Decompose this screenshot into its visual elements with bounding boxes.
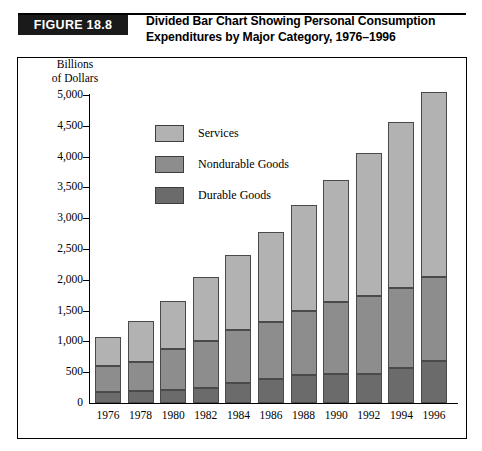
- bar-segment-services-1984: [225, 255, 251, 330]
- y-tick-1000: 1,000: [30, 341, 83, 342]
- y-tick-label: 1,500: [37, 304, 83, 316]
- y-tick-3000: 3,000: [30, 218, 83, 219]
- y-tick-label: 0: [37, 396, 83, 408]
- y-tick-500: 500: [30, 372, 83, 373]
- y-tick-1500: 1,500: [30, 311, 83, 312]
- y-tick-mark: [83, 249, 89, 250]
- bar-segment-nondurable-goods-1996: [421, 277, 447, 361]
- bar-segment-services-1978: [128, 321, 154, 362]
- bar-segment-nondurable-goods-1984: [225, 330, 251, 384]
- stacked-bar-1990: [323, 180, 349, 403]
- bar-segment-services-1992: [356, 153, 382, 296]
- y-tick-label: 4,000: [37, 150, 83, 162]
- y-tick-label: 2,500: [37, 242, 83, 254]
- y-tick-mark: [83, 372, 89, 373]
- y-tick-label: 3,500: [37, 180, 83, 192]
- bar-segment-services-1994: [388, 122, 414, 288]
- y-tick-5000: 5,000: [30, 95, 83, 96]
- stacked-bar-1988: [291, 205, 317, 403]
- stacked-bar-1994: [388, 122, 414, 404]
- bar-segment-services-1990: [323, 180, 349, 302]
- stacked-bar-1996: [421, 92, 447, 403]
- y-tick-mark: [83, 126, 89, 127]
- bar-segment-services-1980: [160, 301, 186, 350]
- bar-segment-durable-goods-1996: [421, 361, 447, 403]
- chart-legend: ServicesNondurable GoodsDurable Goods: [155, 122, 289, 215]
- y-tick-4500: 4,500: [30, 126, 83, 127]
- bar-segment-nondurable-goods-1980: [160, 349, 186, 389]
- stacked-bar-1982: [193, 277, 219, 403]
- y-tick-label: 2,000: [37, 273, 83, 285]
- stacked-bar-1976: [95, 337, 121, 403]
- bar-segment-nondurable-goods-1994: [388, 288, 414, 368]
- stacked-bar-1984: [225, 255, 251, 403]
- bar-segment-durable-goods-1976: [95, 392, 121, 403]
- bar-segment-durable-goods-1992: [356, 374, 382, 403]
- legend-swatch-services: [155, 125, 184, 142]
- bar-segment-durable-goods-1978: [128, 391, 154, 403]
- y-tick-3500: 3,500: [30, 187, 83, 188]
- y-tick-label: 3,000: [37, 211, 83, 223]
- legend-swatch-nondurable-goods: [155, 156, 184, 173]
- bar-segment-nondurable-goods-1990: [323, 302, 349, 374]
- bar-segment-durable-goods-1984: [225, 383, 251, 403]
- stacked-bar-1980: [160, 301, 186, 403]
- y-tick-mark: [83, 157, 89, 158]
- y-tick-mark: [83, 187, 89, 188]
- bar-segment-durable-goods-1994: [388, 368, 414, 403]
- bar-segment-durable-goods-1982: [193, 388, 219, 403]
- y-tick-mark: [83, 311, 89, 312]
- bar-segment-durable-goods-1988: [291, 375, 317, 403]
- bar-segment-services-1982: [193, 277, 219, 341]
- bar-segment-nondurable-goods-1976: [95, 366, 121, 392]
- y-tick-mark: [83, 95, 89, 96]
- legend-label: Durable Goods: [198, 188, 271, 203]
- y-axis-line: [89, 94, 90, 404]
- bar-segment-nondurable-goods-1982: [193, 341, 219, 388]
- y-tick-mark: [83, 280, 89, 281]
- legend-label: Services: [198, 126, 239, 141]
- y-tick-label: 1,000: [37, 334, 83, 346]
- y-tick-label: 4,500: [37, 119, 83, 131]
- y-tick-mark: [83, 341, 89, 342]
- y-tick-2500: 2,500: [30, 249, 83, 250]
- y-tick-2000: 2,000: [30, 280, 83, 281]
- legend-item-nondurable-goods: Nondurable Goods: [155, 153, 289, 175]
- bar-segment-services-1976: [95, 337, 121, 366]
- x-tick-label-1996: 1996: [414, 409, 454, 421]
- bar-segment-durable-goods-1980: [160, 390, 186, 403]
- bar-segment-services-1988: [291, 205, 317, 310]
- y-tick-label: 5,000: [37, 88, 83, 100]
- stacked-bar-1978: [128, 321, 154, 403]
- legend-item-durable-goods: Durable Goods: [155, 184, 289, 206]
- y-tick-mark: [83, 218, 89, 219]
- bar-segment-durable-goods-1990: [323, 374, 349, 403]
- stacked-bar-1992: [356, 153, 382, 403]
- legend-item-services: Services: [155, 122, 289, 144]
- legend-label: Nondurable Goods: [198, 157, 289, 172]
- chart-plot-area: 5,0004,5004,0003,5003,0002,5002,0001,500…: [0, 0, 482, 451]
- stacked-bar-1986: [258, 232, 284, 403]
- legend-swatch-durable-goods: [155, 187, 184, 204]
- bar-segment-nondurable-goods-1992: [356, 296, 382, 375]
- y-tick-label: 500: [37, 365, 83, 377]
- x-axis-line: [89, 403, 458, 404]
- bar-segment-nondurable-goods-1988: [291, 311, 317, 375]
- y-tick-0: 0: [30, 403, 83, 404]
- bar-segment-nondurable-goods-1978: [128, 362, 154, 390]
- bar-segment-durable-goods-1986: [258, 379, 284, 403]
- y-tick-4000: 4,000: [30, 157, 83, 158]
- bar-segment-services-1996: [421, 92, 447, 277]
- bar-segment-services-1986: [258, 232, 284, 322]
- bar-segment-nondurable-goods-1986: [258, 322, 284, 379]
